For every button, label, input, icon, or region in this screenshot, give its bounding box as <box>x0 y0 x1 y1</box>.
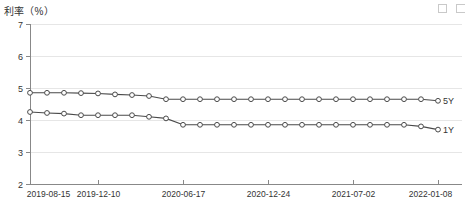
data-point-1y <box>181 122 186 127</box>
x-axis-tick-label: 2020-06-17 <box>162 189 206 199</box>
data-point-5y <box>419 97 424 102</box>
data-point-5y <box>232 97 237 102</box>
y-axis-tick-label: 5 <box>18 84 23 94</box>
data-point-1y <box>96 113 101 118</box>
data-point-1y <box>215 122 220 127</box>
x-axis-tick-label: 2020-12-24 <box>247 189 291 199</box>
y-axis-tick-label: 3 <box>18 148 23 158</box>
data-point-1y <box>147 114 152 119</box>
data-point-1y <box>79 113 84 118</box>
data-point-5y <box>113 92 118 97</box>
x-axis-tick-label: 2019-08-15 <box>27 189 71 199</box>
data-point-5y <box>266 97 271 102</box>
data-point-5y <box>351 97 356 102</box>
x-axis-tick-label: 2019-12-10 <box>77 189 121 199</box>
data-point-1y <box>436 127 441 132</box>
x-axis-tick-label: 2022-01-08 <box>409 189 453 199</box>
data-point-1y <box>385 122 390 127</box>
series-label-5y: 5Y <box>443 96 454 106</box>
data-point-5y <box>402 97 407 102</box>
x-axis-tick-label: 2021-07-02 <box>332 189 376 199</box>
data-point-1y <box>300 122 305 127</box>
data-point-5y <box>368 97 373 102</box>
interest-rate-chart: 利率（%） 7654322019-08-152019-12-102020-06-… <box>0 0 471 205</box>
data-point-5y <box>283 97 288 102</box>
data-point-5y <box>164 97 169 102</box>
data-point-1y <box>113 113 118 118</box>
data-point-5y <box>28 90 33 95</box>
y-axis-tick-label: 2 <box>18 180 23 190</box>
data-point-5y <box>198 97 203 102</box>
data-point-1y <box>368 122 373 127</box>
data-point-5y <box>62 90 67 95</box>
data-point-1y <box>198 122 203 127</box>
series-label-1y: 1Y <box>443 125 454 135</box>
chart-canvas: 7654322019-08-152019-12-102020-06-172020… <box>0 0 471 205</box>
data-point-5y <box>45 90 50 95</box>
data-point-1y <box>130 113 135 118</box>
data-point-5y <box>215 97 220 102</box>
data-point-5y <box>79 91 84 96</box>
data-point-5y <box>334 97 339 102</box>
data-point-1y <box>283 122 288 127</box>
y-axis-tick-label: 6 <box>18 52 23 62</box>
chart-plot-area: 7654322019-08-152019-12-102020-06-172020… <box>0 0 471 205</box>
data-point-1y <box>266 122 271 127</box>
data-point-1y <box>419 124 424 129</box>
data-point-1y <box>334 122 339 127</box>
data-point-1y <box>45 111 50 116</box>
data-point-5y <box>147 94 152 99</box>
data-point-1y <box>62 111 67 116</box>
data-point-5y <box>130 93 135 98</box>
data-point-1y <box>317 122 322 127</box>
data-point-1y <box>402 122 407 127</box>
data-point-1y <box>28 110 33 115</box>
data-point-1y <box>249 122 254 127</box>
data-point-1y <box>351 122 356 127</box>
data-point-5y <box>181 97 186 102</box>
data-point-1y <box>164 116 169 121</box>
data-point-5y <box>300 97 305 102</box>
y-axis-tick-label: 4 <box>18 116 23 126</box>
y-axis-tick-label: 7 <box>18 20 23 30</box>
data-point-5y <box>385 97 390 102</box>
data-point-5y <box>317 97 322 102</box>
data-point-5y <box>436 98 441 103</box>
data-point-5y <box>96 91 101 96</box>
data-point-1y <box>232 122 237 127</box>
data-point-5y <box>249 97 254 102</box>
